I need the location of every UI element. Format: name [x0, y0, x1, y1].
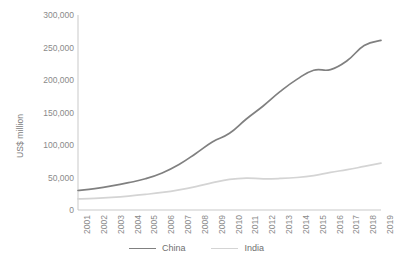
x-axis-tick-label: 2016	[335, 215, 345, 234]
legend-label: China	[162, 243, 186, 253]
legend-entry-india[interactable]: India	[211, 243, 264, 253]
x-axis-tick-label: 2019	[385, 215, 395, 234]
x-axis-tick-label: 2017	[351, 215, 361, 234]
x-axis-tick-label: 2006	[166, 215, 176, 234]
legend-label: India	[244, 243, 264, 253]
x-axis-tick-label: 2013	[284, 215, 294, 234]
x-axis-tick-label: 2003	[116, 215, 126, 234]
x-axis-tick-label: 2001	[82, 215, 92, 234]
legend-line-swatch	[211, 248, 238, 249]
x-axis-tick-label: 2012	[267, 215, 277, 234]
footer-text-sliver	[4, 258, 254, 267]
legend-line-swatch	[129, 248, 156, 249]
legend-entry-china[interactable]: China	[129, 243, 186, 253]
x-axis-tick-label: 2008	[200, 215, 210, 234]
x-axis-tick-label: 2018	[368, 215, 378, 234]
x-axis-tick-label: 2005	[149, 215, 159, 234]
x-axis-tick-label: 2004	[133, 215, 143, 234]
x-axis-tick-label: 2014	[301, 215, 311, 234]
x-axis-tick-label: 2011	[250, 216, 260, 234]
x-axis-tick-label: 2009	[217, 215, 227, 234]
x-axis-tick-label: 2007	[183, 215, 193, 234]
chart-legend: ChinaIndia	[0, 241, 393, 255]
x-axis-tick-label: 2015	[318, 215, 328, 234]
x-axis-tick-label: 2002	[99, 215, 109, 234]
x-axis-tick-label: 2010	[234, 215, 244, 234]
